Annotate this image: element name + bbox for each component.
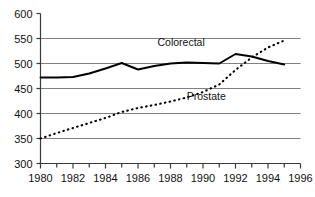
data-series: [41, 41, 285, 139]
series-labels: ColorectalProstate: [158, 36, 227, 102]
x-tick-labels: 198019821984198619881990199219941996: [28, 172, 312, 184]
series-label-prostate: Prostate: [187, 90, 226, 102]
chart-container: 300350400450500550600 198019821984198619…: [0, 0, 315, 197]
x-tick-label: 1990: [191, 172, 215, 184]
y-tick-label: 550: [14, 33, 32, 45]
y-tick-label: 350: [14, 133, 32, 145]
line-chart: 300350400450500550600 198019821984198619…: [0, 0, 315, 197]
x-tick-label: 1996: [288, 172, 312, 184]
y-tick-labels: 300350400450500550600: [14, 8, 32, 170]
y-tick-label: 600: [14, 8, 32, 20]
x-tick-label: 1984: [93, 172, 117, 184]
x-axis: [41, 164, 301, 169]
gridlines: [41, 39, 301, 139]
y-tick-label: 400: [14, 108, 32, 120]
series-line-colorectal: [41, 54, 285, 78]
series-label-colorectal: Colorectal: [158, 36, 205, 48]
y-tick-label: 450: [14, 83, 32, 95]
x-tick-label: 1994: [256, 172, 280, 184]
y-axis: [37, 14, 41, 164]
y-tick-label: 300: [14, 158, 32, 170]
x-tick-label: 1992: [223, 172, 247, 184]
y-tick-label: 500: [14, 58, 32, 70]
x-tick-label: 1982: [61, 172, 85, 184]
x-tick-label: 1988: [158, 172, 182, 184]
x-tick-label: 1986: [126, 172, 150, 184]
x-tick-label: 1980: [28, 172, 52, 184]
